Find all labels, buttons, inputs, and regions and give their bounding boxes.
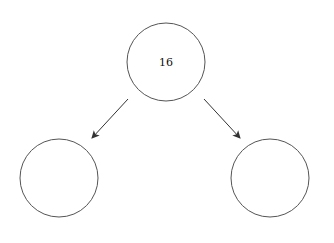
node-left xyxy=(20,139,98,217)
edge-root-left-arrow xyxy=(92,99,128,138)
root-label: 16 xyxy=(159,56,173,69)
right-circle xyxy=(231,139,309,217)
node-right xyxy=(231,139,309,217)
left-circle xyxy=(20,139,98,217)
edge-root-right-arrow xyxy=(204,99,240,138)
node-root: 16 xyxy=(127,23,205,101)
tree-diagram: 16 xyxy=(0,0,334,243)
